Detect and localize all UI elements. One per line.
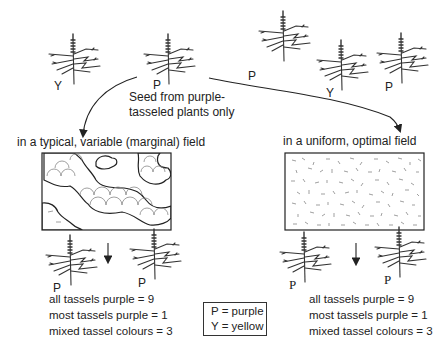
seed-caption-line2: tasseled plants only (129, 105, 234, 119)
plant-icon (49, 34, 100, 84)
offspring-label: P (289, 279, 296, 291)
plant-label: P (385, 81, 393, 93)
result-mixed: mixed tassel colours = 3 (309, 323, 433, 339)
offspring-label: P (384, 274, 391, 286)
marginal-field-results: all tassels purple = 9 most tassels purp… (49, 291, 173, 339)
seed-caption-line1: Seed from purple- (129, 90, 225, 104)
optimal-field-illustration (285, 153, 424, 230)
plant-icon (377, 33, 428, 83)
plant-icon (259, 11, 310, 61)
plant-icon (375, 227, 426, 277)
legend-yellow: Y = yellow (211, 319, 266, 334)
result-all-purple: all tassels purple = 9 (309, 291, 433, 307)
optimal-field-results: all tassels purple = 9 most tassels purp… (309, 291, 433, 339)
result-all-purple: all tassels purple = 9 (49, 291, 173, 307)
legend-box: P = purple Y = yellow (203, 302, 267, 336)
offspring-label: P (138, 277, 146, 289)
marginal-field-title: in a typical, variable (marginal) field (17, 135, 205, 149)
marginal-field-illustration (42, 153, 171, 230)
plant-icon (144, 34, 195, 84)
legend-purple: P = purple (211, 304, 266, 319)
optimal-field-title: in a uniform, optimal field (283, 134, 416, 148)
result-most-purple: most tassels purple = 1 (49, 307, 173, 323)
plant-icon (317, 40, 368, 90)
arrow-to-optimal-field (209, 78, 400, 131)
plant-icon (280, 232, 331, 282)
result-mixed: mixed tassel colours = 3 (49, 323, 173, 339)
plant-label: P (248, 70, 256, 82)
result-most-purple: most tassels purple = 1 (309, 307, 433, 323)
plant-label: Y (326, 87, 334, 99)
plant-icon (130, 229, 181, 279)
plant-icon (46, 235, 97, 285)
plant-label: Y (54, 80, 62, 92)
